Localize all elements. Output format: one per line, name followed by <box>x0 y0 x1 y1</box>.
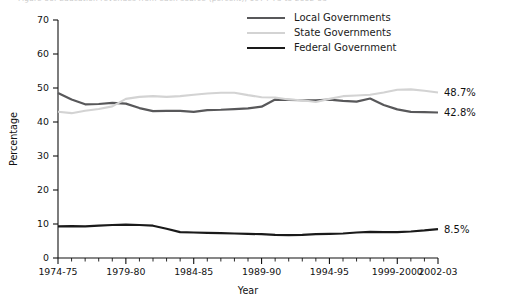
y-tick-label: 40 <box>37 116 49 127</box>
chart-svg: 010203040506070 1974-751979-801984-85198… <box>0 0 518 297</box>
line-chart: 010203040506070 1974-751979-801984-85198… <box>0 0 518 297</box>
y-tick-label: 50 <box>37 82 49 93</box>
y-axis-title: Percentage <box>8 112 19 166</box>
y-tick-label: 60 <box>37 48 49 59</box>
x-tick-label: 1974-75 <box>38 266 77 277</box>
y-tick-label: 70 <box>37 14 49 25</box>
series-line-state-governments <box>58 89 438 113</box>
series-line-federal-government <box>58 225 438 236</box>
end-label-local-governments: 42.8% <box>444 107 476 118</box>
y-tick-label: 0 <box>43 252 49 263</box>
y-axis: 010203040506070 <box>37 14 58 263</box>
x-axis-title: Year <box>237 285 258 296</box>
x-tick-label: 1979-80 <box>106 266 145 277</box>
x-tick-label: 1984-85 <box>174 266 213 277</box>
series-lines <box>58 89 438 235</box>
x-tick-label: 1989-90 <box>242 266 281 277</box>
x-tick-label: 1999-2000 <box>372 266 423 277</box>
y-tick-label: 30 <box>37 150 49 161</box>
y-tick-label: 10 <box>37 218 49 229</box>
x-tick-label: 1994-95 <box>310 266 349 277</box>
figure-container: Figure 00. Education revenues from each … <box>0 0 518 297</box>
end-value-labels: 42.8%48.7%8.5% <box>444 87 476 235</box>
end-label-state-governments: 48.7% <box>444 87 476 98</box>
x-tick-label: 2002-03 <box>418 266 457 277</box>
y-tick-label: 20 <box>37 184 49 195</box>
end-label-federal-government: 8.5% <box>444 224 469 235</box>
x-axis: 1974-751979-801984-851989-901994-951999-… <box>38 258 457 277</box>
